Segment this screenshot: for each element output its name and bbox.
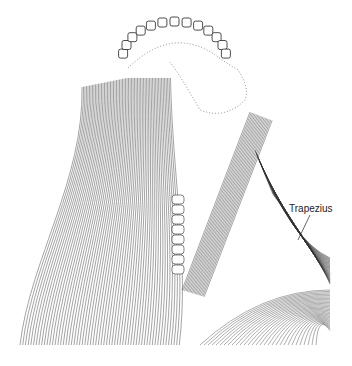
scm-fiber xyxy=(194,117,262,294)
tracheal-ring xyxy=(172,245,184,254)
shoulder-fiber xyxy=(236,302,330,345)
tracheal-ring xyxy=(172,215,184,224)
tooth xyxy=(128,33,137,42)
tooth xyxy=(221,49,230,58)
tooth xyxy=(119,49,128,58)
shoulder-fiber xyxy=(252,307,330,345)
trapezius-label: Trapezius xyxy=(289,203,333,214)
tooth xyxy=(194,21,203,30)
shoulder-fiber xyxy=(284,316,330,345)
tracheal-ring xyxy=(172,235,184,244)
platysma-muscle xyxy=(20,78,182,345)
scm-fiber xyxy=(195,117,263,294)
scm-fiber xyxy=(192,116,260,293)
shoulder-fiber xyxy=(312,323,330,345)
scm-fiber xyxy=(186,114,254,292)
platysma-fiber xyxy=(69,82,109,345)
scm-fiber xyxy=(187,114,255,292)
shoulder-fiber xyxy=(200,290,330,345)
scm-fiber xyxy=(185,113,253,291)
tooth xyxy=(158,18,167,27)
anatomy-figure: Trapezius xyxy=(0,0,352,366)
scm-fiber xyxy=(189,115,257,293)
platysma-fiber xyxy=(66,82,108,345)
tracheal-ring xyxy=(172,255,184,264)
tracheal-ring xyxy=(172,195,184,204)
platysma-fiber xyxy=(104,78,129,345)
trapezius-fiber xyxy=(260,164,330,267)
tracheal-ring xyxy=(172,225,184,234)
sternocleidomastoid-muscle xyxy=(182,112,272,297)
scm-fiber xyxy=(202,120,270,297)
scm-fiber xyxy=(191,116,259,293)
scm-fiber xyxy=(200,119,268,296)
trapezius-leader-line xyxy=(298,215,310,240)
platysma-fiber xyxy=(25,86,85,345)
scm-fiber xyxy=(198,118,266,295)
tooth xyxy=(204,26,213,35)
shoulder-fiber xyxy=(220,297,330,345)
shoulder-fiber xyxy=(316,324,330,345)
trapezius-fiber xyxy=(261,165,330,267)
platysma-fiber xyxy=(28,86,86,345)
shoulder-muscle xyxy=(200,290,330,345)
platysma-fiber xyxy=(131,78,144,345)
tooth xyxy=(218,41,227,50)
tooth xyxy=(146,21,155,30)
tracheal-ring xyxy=(172,265,184,274)
scm-fiber xyxy=(199,119,267,296)
shoulder-fiber xyxy=(304,322,330,345)
trapezius-muscle xyxy=(255,150,330,284)
tracheal-ring xyxy=(172,205,184,214)
neck-muscles-drawing xyxy=(0,0,352,366)
tooth xyxy=(136,26,145,35)
scm-fiber xyxy=(196,118,264,295)
platysma-fiber xyxy=(55,83,101,345)
platysma-fiber xyxy=(23,87,84,345)
tooth xyxy=(182,18,191,27)
platysma-fiber xyxy=(98,78,125,345)
scm-fiber xyxy=(190,115,258,292)
tooth xyxy=(170,17,179,26)
